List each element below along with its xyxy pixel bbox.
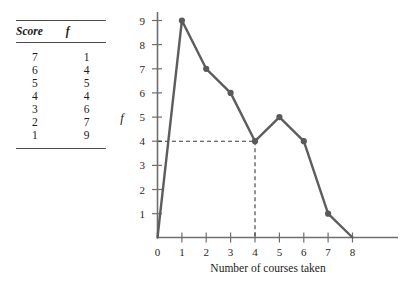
- data-point-4: [252, 138, 258, 144]
- cell-frequency: 4: [56, 63, 106, 76]
- x-axis-tick-labels: 0 1 2 3 4 5 6 7 8: [155, 246, 356, 258]
- cell-frequency: 9: [56, 128, 106, 141]
- cell-score: 7: [16, 50, 56, 63]
- table-spacer-bottom: [16, 141, 106, 149]
- cell-score: 5: [16, 76, 56, 89]
- table-row: 5 5: [16, 76, 106, 89]
- table-spacer-top: [16, 43, 106, 50]
- y-ticklabel-6: 6: [140, 87, 146, 99]
- x-ticklabel-2: 2: [203, 246, 209, 258]
- data-point-6: [301, 138, 307, 144]
- table-row: 4 4: [16, 89, 106, 102]
- table-header-row: Score f: [16, 21, 106, 43]
- table-row: 3 6: [16, 102, 106, 115]
- y-ticklabel-4: 4: [140, 135, 146, 147]
- x-ticklabel-3: 3: [228, 246, 234, 258]
- y-ticklabel-7: 7: [140, 63, 146, 75]
- y-ticklabel-8: 8: [140, 39, 146, 51]
- x-ticklabel-6: 6: [301, 246, 307, 258]
- data-point-2: [203, 66, 209, 72]
- data-point-1: [179, 17, 185, 23]
- y-ticklabel-5: 5: [140, 111, 146, 123]
- cell-frequency: 4: [56, 89, 106, 102]
- y-axis-tick-labels: 9 8 7 6 5 4 3 2 1: [140, 15, 146, 220]
- table-row: 1 9: [16, 128, 106, 141]
- frequency-table: Score f 7 1 6 4 5 5 4 4 3 6: [16, 20, 106, 149]
- table-row: 2 7: [16, 115, 106, 128]
- data-point-7: [325, 211, 331, 217]
- cell-score: 3: [16, 102, 56, 115]
- cell-frequency: 7: [56, 115, 106, 128]
- x-ticklabel-7: 7: [325, 246, 331, 258]
- y-ticklabel-2: 2: [140, 184, 146, 196]
- cell-score: 1: [16, 128, 56, 141]
- cell-frequency: 5: [56, 76, 106, 89]
- cell-score: 2: [16, 115, 56, 128]
- x-ticklabel-5: 5: [277, 246, 283, 258]
- y-ticklabel-3: 3: [140, 159, 146, 171]
- x-axis-title: Number of courses taken: [210, 262, 326, 274]
- x-ticklabel-1: 1: [179, 246, 185, 258]
- table-row: 6 4: [16, 63, 106, 76]
- y-ticklabel-1: 1: [140, 208, 146, 220]
- y-axis-title: f: [120, 111, 125, 125]
- cell-score: 4: [16, 89, 56, 102]
- table-header-frequency: f: [56, 21, 106, 43]
- table-header-score: Score: [16, 21, 56, 43]
- frequency-table-grid: Score f 7 1 6 4 5 5 4 4 3 6: [16, 20, 106, 149]
- x-ticklabel-8: 8: [350, 246, 356, 258]
- x-ticklabel-4: 4: [252, 246, 258, 258]
- x-ticklabel-0: 0: [155, 246, 161, 258]
- cell-frequency: 6: [56, 102, 106, 115]
- frequency-polygon-chart: 9 8 7 6 5 4 3 2 1 0 1 2 3 4: [110, 0, 406, 281]
- table-row: 7 1: [16, 50, 106, 63]
- chart-svg: 9 8 7 6 5 4 3 2 1 0 1 2 3 4: [110, 0, 406, 281]
- cell-score: 6: [16, 63, 56, 76]
- data-point-5: [276, 114, 282, 120]
- data-point-3: [228, 90, 234, 96]
- table-rule-bottom: [16, 149, 106, 150]
- y-ticklabel-9: 9: [140, 15, 146, 27]
- cell-frequency: 1: [56, 50, 106, 63]
